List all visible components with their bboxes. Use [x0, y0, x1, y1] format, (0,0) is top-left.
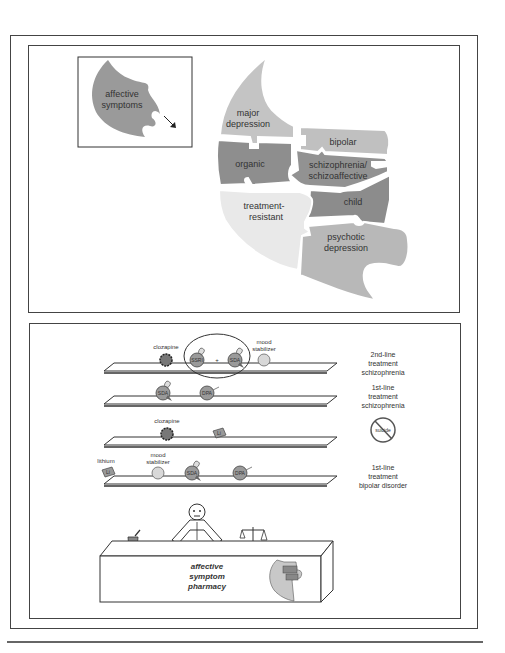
- diagram-canvas: affective symptoms major depression bipo…: [0, 0, 505, 653]
- label-bipolar: bipolar: [329, 137, 356, 147]
- lithium-caption: lithium: [97, 458, 114, 464]
- label-schizo-1: schizophrenia/: [309, 160, 368, 170]
- clozapine-pill-icon: [160, 354, 172, 366]
- shelf-label-1-2: schizophrenia: [361, 402, 404, 410]
- shelf-label-0-2: schizophrenia: [361, 369, 404, 377]
- mood-label-1: mood: [256, 339, 271, 345]
- mood-label-2: stabilizer: [252, 346, 276, 352]
- mood-stabilizer-pill-icon: [258, 354, 270, 366]
- label-organic: organic: [235, 159, 265, 169]
- clozapine-body: [161, 428, 173, 440]
- sda-label: SDA: [230, 357, 241, 363]
- clozapine-body: [160, 354, 172, 366]
- shelf-label-0-0: 2nd-line: [371, 351, 396, 358]
- clozapine-label: clozapine: [153, 344, 179, 350]
- no-suicide-text: suicide: [375, 427, 391, 433]
- clozapine-label: clozapine: [154, 418, 180, 424]
- counter-top: [100, 541, 333, 556]
- label-treat-1: treatment-: [243, 201, 284, 211]
- piece-major-depression: [220, 57, 294, 144]
- arrow-down-right-icon: [164, 116, 176, 128]
- inset-label-line1: affective: [105, 89, 138, 99]
- label-psych-1: psychotic: [327, 232, 365, 242]
- dpa-label: DPA: [202, 390, 213, 396]
- counter-text-3: pharmacy: [187, 582, 226, 591]
- label-treat-2: resistant: [249, 212, 284, 222]
- shelf-label-3-2: bipolar disorder: [359, 482, 408, 490]
- counter-text-1: affective: [191, 562, 224, 571]
- shelf-1: [104, 396, 337, 404]
- label-psych-2: depression: [324, 243, 368, 253]
- dpa-tail: [213, 387, 219, 390]
- inset-label-line2: symptoms: [101, 100, 143, 110]
- lithium-tablet-label: Li: [217, 430, 221, 436]
- shelves: 2nd-linetreatmentschizophreniaclozapineS…: [97, 339, 407, 490]
- mood-stabilizer-pill-icon: [152, 467, 164, 479]
- sda-label: SDA: [158, 390, 169, 396]
- counter-text-2: symptom: [189, 572, 225, 581]
- mood-label-2: stabilizer: [146, 459, 170, 465]
- dpa-label: DPA: [235, 470, 246, 476]
- label-child: child: [344, 197, 363, 207]
- label-major-1: major: [237, 108, 260, 118]
- shelf-label-3-1: treatment: [368, 473, 398, 480]
- ssri-label: SSRI: [191, 357, 203, 363]
- sda-label: SDA: [187, 470, 198, 476]
- shelf-label-1-1: treatment: [368, 393, 398, 400]
- label-schizo-2: schizoaffective: [309, 171, 368, 181]
- shelf-0: [104, 363, 337, 371]
- pharmacist: [172, 504, 222, 544]
- mood-label-1: mood: [150, 452, 165, 458]
- label-major-2: depression: [226, 119, 270, 129]
- shelf-2: [104, 437, 337, 445]
- shelf-label-3-0: 1st-line: [372, 464, 395, 471]
- clozapine-pill-icon: [161, 428, 173, 440]
- pharmacy: affective symptom pharmacy: [100, 504, 333, 602]
- dpa-tail: [246, 467, 252, 470]
- plus-sign: +: [215, 357, 219, 363]
- shelf-label-0-1: treatment: [368, 360, 398, 367]
- lithium-tablet-label: Li: [106, 469, 110, 475]
- shelf-label-1-0: 1st-line: [372, 384, 395, 391]
- shelf-3: [104, 476, 337, 484]
- no-suicide-icon: suicide: [371, 418, 395, 442]
